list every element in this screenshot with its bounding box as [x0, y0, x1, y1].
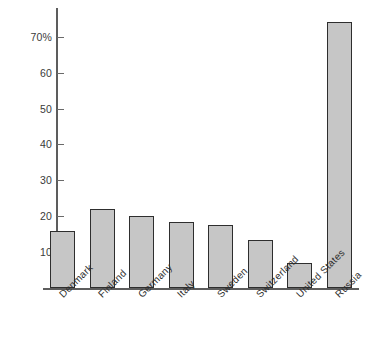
plot-area: [43, 8, 359, 288]
bar-chart: 10203040506070% DenmarkFinlandGermanyIta…: [0, 0, 366, 338]
